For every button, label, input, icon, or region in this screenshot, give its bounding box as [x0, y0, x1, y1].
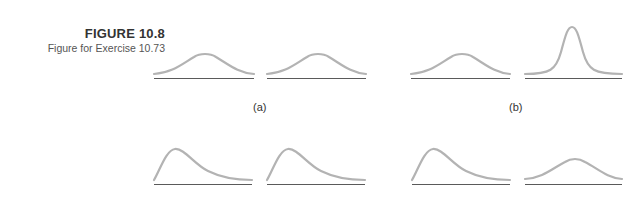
panel-label-b: (b) — [509, 101, 522, 113]
curve-a-left — [154, 54, 254, 74]
curve-a-right — [267, 54, 366, 74]
curve-b-right — [525, 27, 622, 74]
panel-label-a: (a) — [253, 101, 266, 113]
curve-b-left — [411, 54, 510, 74]
distribution-figures — [0, 0, 631, 206]
curve-c-right — [267, 149, 365, 180]
curve-c-left — [154, 149, 252, 180]
curve-d-left — [412, 149, 510, 180]
curve-d-right — [525, 159, 622, 179]
